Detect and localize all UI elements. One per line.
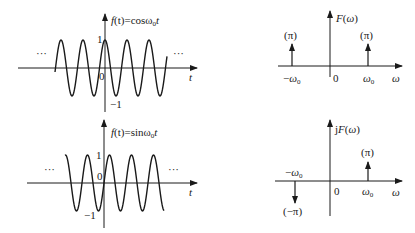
- sin-origin-label: 0: [97, 170, 103, 182]
- cos-freq-x-axis-label: ω: [392, 72, 400, 84]
- cos-impulse-pos-label: (π): [360, 29, 373, 42]
- fourier-diagram: f(t)=cosω0t 1 −1 0 t ··· ··· F(ω) (π) (π…: [0, 0, 415, 233]
- sin-neg-freq-label: −ω0: [285, 166, 303, 180]
- cos-freq-axis-label: F(ω): [335, 12, 358, 25]
- cos-function-label: f(t)=cosω0t: [111, 14, 160, 28]
- sin-pos-freq-label: ω0: [362, 185, 374, 199]
- cos-origin-label-freq: 0: [333, 72, 339, 84]
- cos-ellipsis-right: ···: [173, 47, 184, 59]
- cos-impulse-neg-label: (π): [284, 29, 297, 42]
- sin-x-axis-label: t: [189, 186, 193, 198]
- cos-y-min-label: −1: [110, 98, 122, 110]
- sin-freq-panel: jF(ω) (π) (−π) −ω0 0 ω0 ω: [275, 120, 402, 218]
- cos-pos-freq-label: ω0: [363, 72, 375, 86]
- sin-impulse-neg-label: (−π): [283, 205, 302, 218]
- cos-time-panel: f(t)=cosω0t 1 −1 0 t ··· ···: [18, 14, 197, 112]
- cos-freq-panel: F(ω) (π) (π) −ω0 0 ω0 ω: [278, 11, 402, 86]
- sin-origin-label-freq: 0: [334, 185, 340, 197]
- sin-time-panel: f(t)=sinω0t 1 −1 0 t ··· ···: [27, 120, 197, 228]
- sin-ellipsis-right: ···: [168, 163, 179, 175]
- sin-ellipsis-left: ···: [44, 163, 55, 175]
- cos-y-max-label: 1: [97, 33, 103, 45]
- sin-y-max-label: 1: [96, 149, 102, 161]
- cos-origin-label: 0: [99, 70, 105, 82]
- sin-function-label: f(t)=sinω0t: [111, 126, 158, 140]
- sin-y-min-label: −1: [84, 209, 96, 221]
- cos-x-axis-label: t: [189, 71, 193, 83]
- sin-impulse-pos-label: (π): [361, 146, 374, 159]
- cos-neg-freq-label: −ω0: [283, 72, 301, 86]
- sin-freq-axis-label: jF(ω): [334, 123, 360, 136]
- cos-ellipsis-left: ···: [36, 47, 47, 59]
- sin-freq-x-axis-label: ω: [392, 186, 400, 198]
